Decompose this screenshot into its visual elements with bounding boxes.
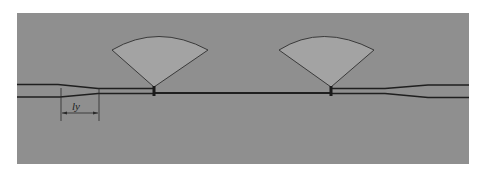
left-feed-upper-edge: [17, 85, 154, 89]
dimension-arrow-left: [62, 112, 67, 115]
dimension-arrow-right: [93, 112, 98, 115]
junction-marker-right: [330, 86, 333, 96]
left-feed-lower-edge: [17, 94, 154, 98]
junction-marker-left: [153, 86, 156, 96]
dimension-label: ly: [72, 100, 80, 112]
right-feed-upper-edge: [331, 85, 469, 89]
radial-stub-left: [112, 37, 208, 88]
right-feed-lower-edge: [331, 94, 469, 98]
microstrip-layout-diagram: [0, 0, 485, 175]
radial-stub-right: [279, 37, 374, 88]
